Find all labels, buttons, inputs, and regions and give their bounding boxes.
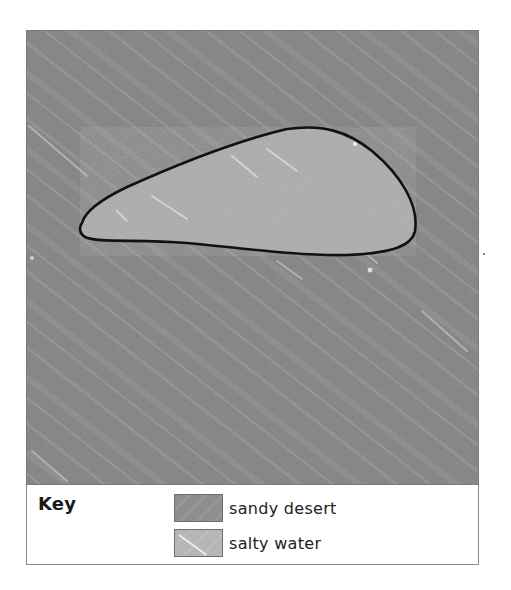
map-canvas — [27, 31, 479, 485]
key-title: Key — [38, 493, 76, 514]
salty-water-swatch — [174, 529, 223, 557]
map-area — [26, 30, 479, 485]
map-key: Key sandy desert salty water — [26, 485, 479, 565]
stray-mark — [483, 253, 485, 255]
key-item-salty-water: salty water — [174, 529, 321, 557]
key-label: salty water — [229, 534, 321, 553]
key-item-sandy-desert: sandy desert — [174, 494, 337, 522]
sandy-desert-swatch — [174, 494, 223, 522]
key-label: sandy desert — [229, 499, 337, 518]
